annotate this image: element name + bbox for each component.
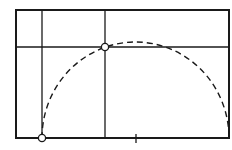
vertical-reference-lines xyxy=(42,10,105,138)
intersection-point-marker xyxy=(101,43,108,50)
marked-points xyxy=(38,43,108,141)
dashed-semicircle-arc xyxy=(42,42,229,138)
outer-frame xyxy=(16,10,229,138)
start-point-marker xyxy=(38,134,45,141)
diagram-canvas xyxy=(0,0,232,150)
